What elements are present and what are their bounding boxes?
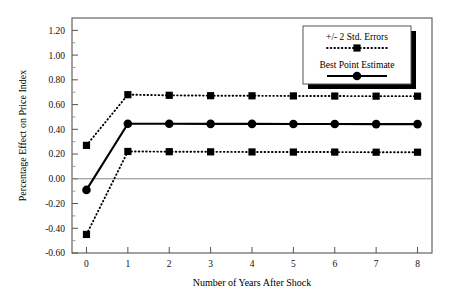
data-point-marker bbox=[413, 120, 422, 129]
legend-label: +/- 2 Std. Errors bbox=[326, 32, 388, 42]
y-axis-tick-label: 1.00 bbox=[48, 51, 65, 61]
data-point-marker bbox=[166, 148, 173, 155]
x-axis-tick-label: 6 bbox=[332, 259, 337, 269]
data-point-marker bbox=[124, 91, 131, 98]
price-index-response-chart: 1.201.000.800.600.400.200.00-0.20-0.40-0… bbox=[0, 0, 456, 297]
data-point-marker bbox=[206, 120, 215, 129]
data-point-marker bbox=[124, 148, 131, 155]
y-axis-tick-label: -0.60 bbox=[45, 248, 65, 258]
legend-sample-marker bbox=[353, 44, 360, 51]
data-point-marker bbox=[82, 186, 91, 195]
y-axis-tick-label: 0.80 bbox=[48, 75, 65, 85]
series-2 bbox=[82, 119, 422, 194]
x-axis-tick-label: 8 bbox=[415, 259, 420, 269]
data-point-marker bbox=[290, 92, 297, 99]
y-axis-tick-label: -0.40 bbox=[45, 224, 65, 234]
chart-container: 1.201.000.800.600.400.200.00-0.20-0.40-0… bbox=[0, 0, 456, 297]
y-axis-tick-label: 0.00 bbox=[48, 174, 65, 184]
data-point-marker bbox=[83, 142, 90, 149]
series-line bbox=[86, 124, 417, 190]
y-axis-tick-label: 0.40 bbox=[48, 125, 65, 135]
data-point-marker bbox=[165, 119, 174, 128]
legend-label: Best Point Estimate bbox=[320, 60, 395, 70]
data-point-marker bbox=[414, 149, 421, 156]
legend-sample-marker bbox=[353, 72, 362, 81]
data-point-marker bbox=[289, 120, 298, 129]
data-point-marker bbox=[373, 93, 380, 100]
data-point-marker bbox=[207, 92, 214, 99]
x-axis-tick-label: 3 bbox=[208, 259, 213, 269]
x-axis-tick-label: 2 bbox=[167, 259, 172, 269]
data-point-marker bbox=[331, 92, 338, 99]
data-point-marker bbox=[248, 120, 257, 129]
data-point-marker bbox=[331, 148, 338, 155]
y-axis-tick-label: 1.20 bbox=[48, 26, 65, 36]
y-axis-tick-label: 0.20 bbox=[48, 149, 65, 159]
data-point-marker bbox=[330, 120, 339, 129]
x-axis-title: Number of Years After Shock bbox=[193, 277, 312, 288]
x-axis-tick-label: 4 bbox=[250, 259, 255, 269]
y-axis-tick-label: -0.20 bbox=[45, 199, 65, 209]
series-line bbox=[86, 151, 417, 234]
data-point-marker bbox=[83, 231, 90, 238]
data-point-marker bbox=[248, 92, 255, 99]
x-axis-tick-label: 0 bbox=[84, 259, 89, 269]
legend: +/- 2 Std. ErrorsBest Point Estimate bbox=[303, 26, 416, 89]
data-point-marker bbox=[166, 92, 173, 99]
data-point-marker bbox=[248, 148, 255, 155]
data-point-marker bbox=[290, 148, 297, 155]
y-axis-title: Percentage Effect on Price Index bbox=[17, 70, 28, 201]
data-point-marker bbox=[124, 119, 133, 128]
data-point-marker bbox=[207, 148, 214, 155]
data-point-marker bbox=[373, 149, 380, 156]
y-axis-tick-label: 0.60 bbox=[48, 100, 65, 110]
data-point-marker bbox=[372, 120, 381, 129]
x-axis-tick-label: 5 bbox=[291, 259, 296, 269]
x-axis-tick-label: 7 bbox=[374, 259, 379, 269]
data-point-marker bbox=[414, 93, 421, 100]
x-axis-tick-label: 1 bbox=[125, 259, 130, 269]
series-3 bbox=[83, 148, 421, 238]
